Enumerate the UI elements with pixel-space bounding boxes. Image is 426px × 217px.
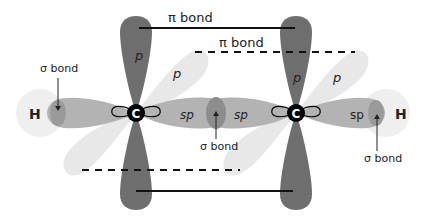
sp-label-center-left: sp bbox=[180, 108, 194, 122]
p-label-left-vertical: p bbox=[134, 48, 143, 63]
carbon-left: C bbox=[127, 104, 145, 122]
h-label-right: H bbox=[395, 106, 407, 122]
p-label-right-diagonal: p bbox=[332, 70, 341, 85]
sigma-label-left: σ bond bbox=[40, 62, 78, 75]
sigma-label-center: σ bond bbox=[200, 140, 238, 153]
h-label-left: H bbox=[29, 106, 41, 122]
sp-label-right: sp bbox=[350, 108, 364, 122]
sp-label-center-right: sp bbox=[234, 108, 248, 122]
p-label-right-vertical: p bbox=[292, 70, 301, 85]
svg-text:C: C bbox=[132, 107, 141, 121]
acetylene-orbital-diagram: C C π bond π bond p p p p sp sp sp H H σ… bbox=[0, 0, 426, 217]
carbon-right: C bbox=[287, 104, 305, 122]
sigma-label-right: σ bond bbox=[364, 152, 402, 165]
p-label-left-diagonal: p bbox=[172, 66, 181, 81]
svg-text:C: C bbox=[292, 107, 301, 121]
pi-bond-label-top: π bond bbox=[168, 10, 213, 25]
sigma-overlap-right bbox=[368, 100, 384, 126]
pi-bond-label-dashed: π bond bbox=[219, 35, 264, 50]
